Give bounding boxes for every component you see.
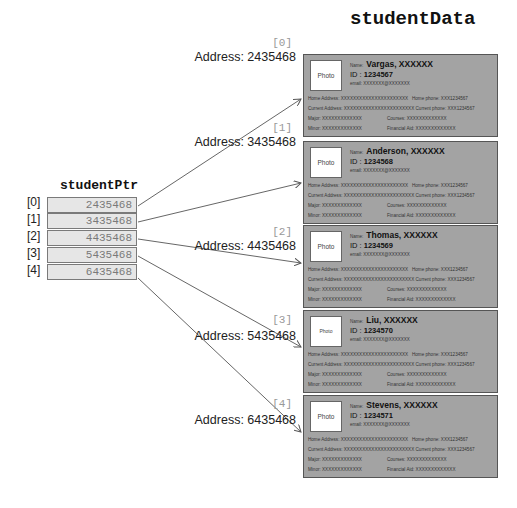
home-phone-label: Home phone:: [412, 437, 440, 442]
major: XXXXXXXXXXXXX: [322, 457, 362, 462]
record-index: [4]: [232, 398, 292, 410]
minor: XXXXXXXXXXXXX: [322, 467, 362, 472]
financial-aid: XXXXXXXXXXXXX: [416, 126, 456, 131]
name-label: Name:: [350, 150, 363, 155]
home-address-label: Home Address:: [308, 267, 339, 272]
financial-aid-label: Financial Aid:: [387, 297, 414, 302]
financial-aid-label: Financial Aid:: [387, 467, 414, 472]
student-email: XXXXXXX@XXXXXXX: [363, 252, 410, 257]
record-index: [2]: [232, 226, 292, 238]
home-address: XXXXXXXXXXXXXXXXXXXXXX: [341, 267, 408, 272]
home-phone: XXX1234567: [441, 183, 468, 188]
current-phone: XXX1234567: [447, 106, 474, 111]
minor-label: Minor:: [308, 126, 321, 131]
major: XXXXXXXXXXXXX: [322, 116, 362, 121]
record-address: Address: 3435468: [176, 135, 296, 149]
major-label: Major:: [308, 457, 321, 462]
student-id: 1234571: [364, 411, 393, 420]
minor-label: Minor:: [308, 297, 321, 302]
financial-aid: XXXXXXXXXXXXX: [416, 297, 456, 302]
courses-label: Courses:: [387, 287, 405, 292]
minor: XXXXXXXXXXXXX: [322, 297, 362, 302]
current-address-label: Current Address:: [308, 277, 342, 282]
courses: XXXXXXXXXXXXX: [407, 457, 447, 462]
record-index: [3]: [232, 314, 292, 326]
photo-placeholder: Photo: [310, 401, 342, 432]
courses-label: Courses:: [387, 457, 405, 462]
courses: XXXXXXXXXXXXX: [407, 203, 447, 208]
minor-label: Minor:: [308, 467, 321, 472]
name-label: Name:: [350, 404, 363, 409]
courses: XXXXXXXXXXXXX: [407, 287, 447, 292]
major: XXXXXXXXXXXXX: [322, 287, 362, 292]
id-label: ID :: [350, 70, 364, 79]
photo-placeholder: Photo: [310, 60, 342, 91]
student-record-card: Photo Name:Stevens, XXXXXX ID : 1234571 …: [303, 395, 498, 478]
home-phone: XXX1234567: [441, 352, 468, 357]
email-label: email:: [350, 252, 362, 257]
student-id: 1234570: [364, 326, 393, 335]
student-record-card: Photo Name:Thomas, XXXXXX ID : 1234569 e…: [303, 225, 498, 308]
student-name: Stevens, XXXXXX: [366, 400, 437, 410]
current-address: XXXXXXXXXXXXXXXXXXXXXXX: [344, 193, 414, 198]
current-phone: XXX1234567: [447, 193, 474, 198]
record-address: Address: 4435468: [176, 239, 296, 253]
home-address-label: Home Address:: [308, 352, 339, 357]
courses: XXXXXXXXXXXXX: [407, 116, 447, 121]
home-address: XXXXXXXXXXXXXXXXXXXXXX: [341, 183, 408, 188]
major: XXXXXXXXXXXXX: [322, 372, 362, 377]
student-id: 1234569: [364, 241, 393, 250]
home-address-label: Home Address:: [308, 437, 339, 442]
home-phone-label: Home phone:: [412, 96, 440, 101]
student-name: Vargas, XXXXXX: [366, 59, 433, 69]
major-label: Major:: [308, 372, 321, 377]
email-label: email:: [350, 168, 362, 173]
financial-aid-label: Financial Aid:: [387, 213, 414, 218]
home-address-label: Home Address:: [308, 96, 339, 101]
current-phone: XXX1234567: [447, 447, 474, 452]
record-address: Address: 5435468: [176, 329, 296, 343]
email-label: email:: [350, 422, 362, 427]
id-label: ID :: [350, 411, 364, 420]
current-address: XXXXXXXXXXXXXXXXXXXXXXX: [344, 447, 414, 452]
current-address-label: Current Address:: [308, 447, 342, 452]
arrow-1: [138, 183, 301, 222]
home-address: XXXXXXXXXXXXXXXXXXXXXX: [341, 437, 408, 442]
student-record-card: Photo Name:Anderson, XXXXXX ID : 1234568…: [303, 141, 498, 224]
name-label: Name:: [350, 63, 363, 68]
current-phone: XXX1234567: [447, 277, 474, 282]
home-phone-label: Home phone:: [412, 352, 440, 357]
financial-aid-label: Financial Aid:: [387, 382, 414, 387]
current-address-label: Current Address:: [308, 193, 342, 198]
arrow-0: [138, 99, 301, 206]
id-label: ID :: [350, 241, 364, 250]
courses: XXXXXXXXXXXXX: [407, 372, 447, 377]
home-address: XXXXXXXXXXXXXXXXXXXXXX: [341, 352, 408, 357]
record-address: Address: 2435468: [176, 50, 296, 64]
photo-placeholder: Photo: [310, 316, 342, 347]
id-label: ID :: [350, 157, 364, 166]
student-record-card: Photo Name:Vargas, XXXXXX ID : 1234567 e…: [303, 54, 498, 137]
student-id: 1234568: [364, 157, 393, 166]
student-email: XXXXXXX@XXXXXXX: [363, 81, 410, 86]
major: XXXXXXXXXXXXX: [322, 203, 362, 208]
record-address: Address: 6435468: [176, 413, 296, 427]
minor-label: Minor:: [308, 213, 321, 218]
current-address: XXXXXXXXXXXXXXXXXXXXXXX: [344, 362, 414, 367]
current-address-label: Current Address:: [308, 362, 342, 367]
home-phone: XXX1234567: [441, 437, 468, 442]
student-email: XXXXXXX@XXXXXXX: [363, 337, 410, 342]
current-phone-label: Current phone:: [416, 277, 447, 282]
courses-label: Courses:: [387, 372, 405, 377]
current-phone-label: Current phone:: [416, 362, 447, 367]
current-phone-label: Current phone:: [416, 447, 447, 452]
home-address-label: Home Address:: [308, 183, 339, 188]
student-record-card: Photo Name:Liu, XXXXXX ID : 1234570 emai…: [303, 310, 498, 393]
financial-aid: XXXXXXXXXXXXX: [416, 382, 456, 387]
email-label: email:: [350, 81, 362, 86]
home-phone: XXX1234567: [441, 96, 468, 101]
courses-label: Courses:: [387, 116, 405, 121]
home-phone-label: Home phone:: [412, 183, 440, 188]
student-name: Thomas, XXXXXX: [366, 230, 437, 240]
name-label: Name:: [350, 319, 363, 324]
